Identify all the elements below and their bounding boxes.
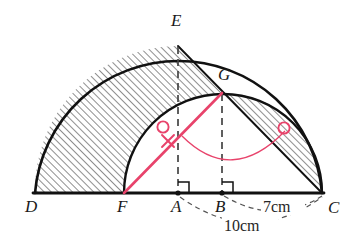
point-label-A: A: [170, 197, 182, 216]
point-label-D: D: [24, 197, 38, 216]
dimension-label-ac: 10cm: [222, 217, 278, 235]
red-cross-mark: [162, 135, 174, 147]
svg-text:7cm: 7cm: [263, 198, 291, 215]
vertex-dot-B: [219, 190, 224, 195]
line-EC: [178, 46, 322, 193]
point-label-E: E: [170, 11, 182, 30]
point-label-G: G: [218, 65, 230, 84]
red-circle-left: [157, 121, 168, 132]
vertex-dot-A: [175, 190, 180, 195]
point-label-F: F: [116, 197, 128, 216]
point-label-C: C: [328, 198, 340, 217]
point-label-B: B: [215, 197, 226, 216]
dimension-label-bc: 7cm: [261, 198, 305, 215]
svg-text:10cm: 10cm: [224, 217, 260, 234]
figure-canvas: D F A B C E G 7cm 10cm: [0, 0, 356, 238]
geometry-figure: D F A B C E G 7cm 10cm: [0, 0, 356, 238]
